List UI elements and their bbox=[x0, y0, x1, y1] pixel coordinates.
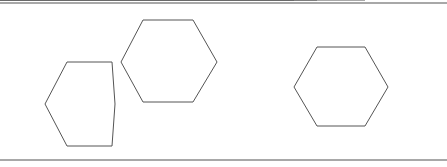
hexagon-subdivided-shape bbox=[294, 47, 388, 126]
hexagon-left-shape bbox=[45, 62, 115, 146]
figure-canvas bbox=[0, 0, 447, 167]
hexagon-upper-right-shape bbox=[121, 20, 217, 102]
hexagon-figure-svg bbox=[0, 0, 447, 167]
